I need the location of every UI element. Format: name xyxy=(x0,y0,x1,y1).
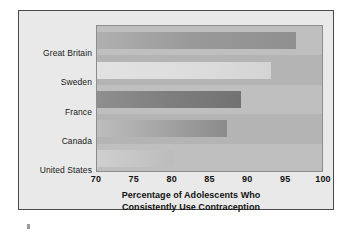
x-tick-label-70: 70 xyxy=(91,174,101,184)
category-label-france: France xyxy=(18,107,92,117)
x-tick-label-80: 80 xyxy=(166,174,176,184)
x-tick-label-85: 85 xyxy=(204,174,214,184)
category-label-united-states: United States xyxy=(18,165,92,175)
x-axis-ticks: 707580859095100 xyxy=(96,174,323,188)
chart-title-line-1: Percentage of Adolescents Who xyxy=(59,190,323,202)
category-label-canada: Canada xyxy=(18,136,92,146)
chart-title-line-2: Consistently Use Contraception xyxy=(59,202,323,214)
bar-france xyxy=(97,91,241,108)
x-tick-label-95: 95 xyxy=(280,174,290,184)
bar-great-britain xyxy=(97,32,296,49)
chart-title: Percentage of Adolescents WhoConsistentl… xyxy=(59,190,323,213)
chart-figure: Great BritainSwedenFranceCanadaUnited St… xyxy=(18,10,334,210)
bar-united-states xyxy=(97,150,173,167)
x-tick-label-75: 75 xyxy=(129,174,139,184)
x-tick-label-90: 90 xyxy=(242,174,252,184)
bar-canada xyxy=(97,120,227,137)
category-axis: Great BritainSwedenFranceCanadaUnited St… xyxy=(19,25,92,172)
x-tick-label-100: 100 xyxy=(315,174,331,184)
category-label-sweden: Sweden xyxy=(18,77,92,87)
category-label-great-britain: Great Britain xyxy=(18,48,92,58)
bar-sweden xyxy=(97,62,271,79)
plot-area xyxy=(96,25,323,172)
scan-artifact-mark xyxy=(27,224,30,229)
